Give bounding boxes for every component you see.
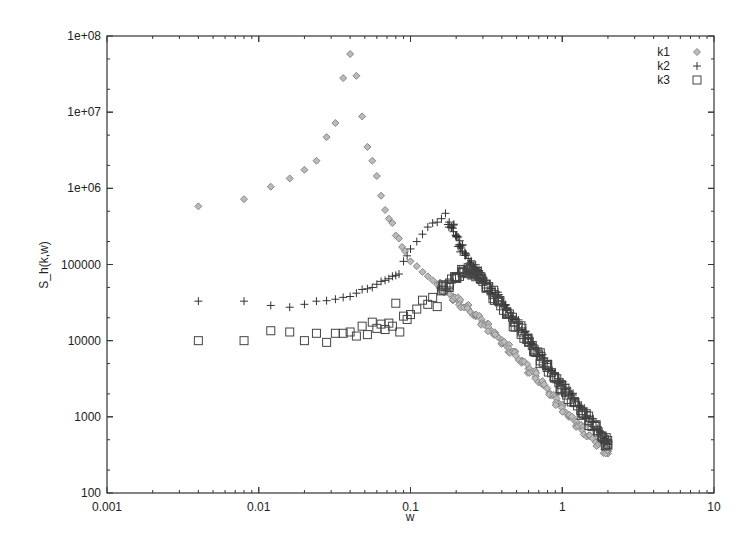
diamond-marker — [378, 192, 385, 199]
diamond-marker — [364, 143, 371, 150]
plus-marker — [413, 238, 421, 246]
legend-label-k2: k2 — [657, 59, 670, 73]
x-tick-label: 10 — [707, 500, 721, 514]
legend-markers — [693, 49, 701, 85]
plus-marker — [286, 303, 294, 311]
x-tick-label: 0.01 — [247, 500, 271, 514]
square-marker — [693, 76, 701, 84]
square-marker — [300, 337, 308, 345]
diamond-marker — [301, 166, 308, 173]
plus-marker — [194, 297, 202, 305]
diamond-marker — [286, 175, 293, 182]
diamond-marker — [413, 263, 420, 270]
y-tick-label: 1e+06 — [67, 181, 101, 195]
square-marker — [413, 305, 421, 313]
diamond-marker — [332, 120, 339, 127]
plus-marker — [300, 300, 308, 308]
legend-label-k3: k3 — [657, 73, 670, 87]
plus-marker — [437, 215, 445, 223]
diamond-marker — [323, 134, 330, 141]
diamond-marker — [340, 75, 347, 82]
plus-marker — [312, 297, 320, 305]
plus-marker — [267, 301, 275, 309]
chart: 0.0010.010.1110 1001000100001000001e+061… — [0, 0, 750, 549]
x-axis-title: w — [405, 510, 415, 524]
plus-marker — [693, 62, 701, 70]
x-tick-label: 1 — [559, 500, 566, 514]
diamond-marker — [382, 206, 389, 213]
y-tick-label: 100000 — [61, 258, 101, 272]
diamond-marker — [347, 51, 354, 58]
diamond-marker — [267, 183, 274, 190]
diamond-marker — [369, 157, 376, 164]
square-marker — [323, 338, 331, 346]
plus-marker — [363, 285, 371, 293]
y-tick-labels: 1001000100001000001e+061e+071e+08 — [61, 29, 101, 500]
square-marker — [358, 322, 366, 330]
square-marker — [312, 329, 320, 337]
plus-marker — [352, 289, 360, 297]
plus-marker — [323, 297, 331, 305]
y-tick-label: 1000 — [74, 410, 101, 424]
square-marker — [194, 337, 202, 345]
diamond-marker — [694, 49, 701, 56]
plus-marker — [400, 257, 408, 265]
x-tick-label: 0.001 — [92, 500, 122, 514]
diamond-marker — [313, 157, 320, 164]
diamond-marker — [195, 203, 202, 210]
plus-marker — [433, 218, 441, 226]
plus-marker — [240, 297, 248, 305]
plus-marker — [346, 293, 354, 301]
square-marker — [392, 299, 400, 307]
diamond-marker — [407, 258, 414, 265]
y-tick-label: 100 — [81, 486, 101, 500]
plus-marker — [429, 219, 437, 227]
series-k3 — [194, 264, 612, 450]
y-tick-label: 1e+08 — [67, 29, 101, 43]
diamond-marker — [373, 173, 380, 180]
plus-marker — [331, 295, 339, 303]
square-marker — [433, 303, 441, 311]
square-marker — [267, 327, 275, 335]
series-k1 — [195, 51, 612, 457]
square-marker — [331, 329, 339, 337]
plus-marker — [424, 223, 432, 231]
plus-marker — [441, 209, 449, 217]
square-marker — [240, 337, 248, 345]
plus-marker — [419, 230, 427, 238]
plus-marker — [339, 293, 347, 301]
diamond-marker — [241, 196, 248, 203]
diamond-marker — [353, 72, 360, 79]
plus-marker — [358, 285, 366, 293]
square-marker — [368, 318, 376, 326]
y-tick-label: 1e+07 — [67, 105, 101, 119]
square-marker — [396, 328, 404, 336]
legend: k1 k2 k3 — [657, 45, 701, 87]
diamond-marker — [359, 113, 366, 120]
data-points — [194, 51, 612, 457]
square-marker — [286, 328, 294, 336]
y-axis-title: S_h(k,w) — [37, 241, 51, 288]
y-tick-label: 10000 — [68, 334, 102, 348]
diamond-marker — [419, 268, 426, 275]
square-marker — [363, 331, 371, 339]
legend-label-k1: k1 — [657, 45, 670, 59]
plus-marker — [381, 276, 389, 284]
